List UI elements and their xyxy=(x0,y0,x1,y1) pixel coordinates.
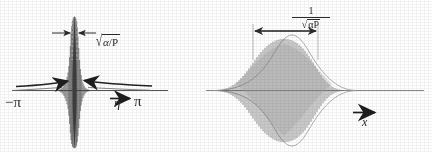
right-panel xyxy=(206,24,424,146)
packet-width-callout-label: 1 √αP xyxy=(292,6,330,30)
eta-width-denominator: P xyxy=(112,36,118,48)
eta-axis-left-endpoint-label: −π xyxy=(5,95,21,110)
eta-pointer-arrow-left xyxy=(16,81,68,87)
packet-width-denominator: αP xyxy=(307,19,320,31)
eta-axis-variable-label: η xyxy=(114,96,120,109)
packet-width-numerator: 1 xyxy=(292,6,330,17)
eta-tail-right xyxy=(88,87,150,90)
left-panel xyxy=(12,16,168,148)
figure-svg xyxy=(0,0,432,152)
radical-sign-icon: √ xyxy=(96,32,102,49)
figure-canvas: −π π η √α/P 1 √αP x xyxy=(0,0,432,152)
fraction-bar xyxy=(292,17,330,18)
eta-width-callout-label: √α/P xyxy=(96,34,120,48)
x-axis-variable-label: x xyxy=(362,116,367,128)
eta-axis-right-endpoint-label: π xyxy=(134,94,142,109)
eta-pointer-arrow-right xyxy=(84,81,152,87)
packet-width-denominator-group: √αP xyxy=(292,19,330,31)
